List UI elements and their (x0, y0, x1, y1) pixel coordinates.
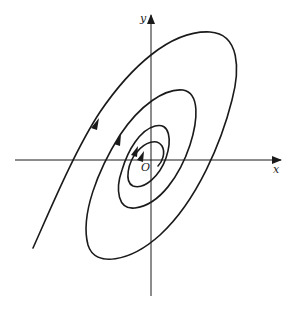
origin-label: O (141, 161, 150, 174)
x-axis-label: x (273, 163, 279, 176)
spiral-trajectory (33, 32, 237, 259)
y-axis-label: y (140, 12, 146, 25)
phase-portrait-diagram (0, 0, 296, 313)
trajectory-arrow-icon (114, 134, 121, 146)
